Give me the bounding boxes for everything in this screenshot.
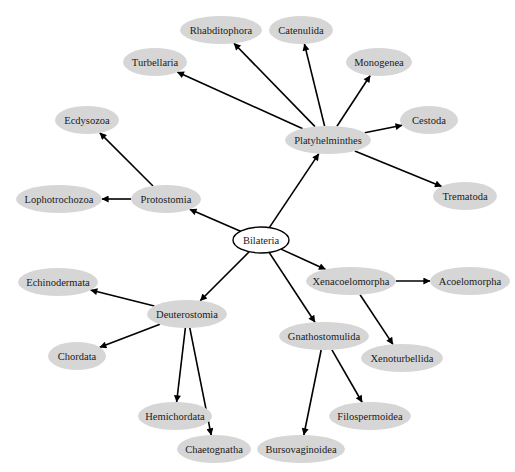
node-turbellaria: Turbellaria [123, 48, 187, 76]
edge-gnathostomulida-to-filospermoidea [332, 350, 362, 402]
node-label: Lophotrochozoa [25, 194, 94, 205]
node-rhabditophora: Rhabditophora [180, 16, 262, 44]
edge-bilateria-to-gnathostomulida [269, 252, 315, 322]
edge-platyhelminthes-to-monogenea [337, 75, 370, 126]
node-acoelomorpha: Acoelomorpha [430, 267, 510, 295]
node-ecdysozoa: Ecdysozoa [55, 106, 119, 134]
node-gnathostomulida: Gnathostomulida [279, 322, 369, 350]
node-label: Xenacoelomorpha [313, 276, 390, 287]
node-label: Turbellaria [132, 57, 179, 68]
node-label: Hemichordata [145, 411, 205, 422]
node-label: Cestoda [412, 115, 446, 126]
node-label: Bilateria [243, 235, 279, 246]
edge-platyhelminthes-to-turbellaria [177, 72, 303, 129]
node-chaetognatha: Chaetognatha [177, 435, 251, 463]
node-platyhelminthes: Platyhelminthes [285, 126, 371, 154]
edge-platyhelminthes-to-catenulida [304, 44, 324, 126]
edge-bilateria-to-xenacoelomorpha [281, 249, 326, 269]
edge-platyhelminthes-to-cestoda [365, 125, 402, 132]
node-label: Deuterostomia [156, 309, 218, 320]
edge-platyhelminthes-to-trematoda [355, 151, 442, 186]
node-label: Chordata [58, 351, 97, 362]
edge-deuterostomia-to-chordata [100, 324, 160, 347]
node-label: Echinodermata [26, 277, 90, 288]
edge-bilateria-to-protostomia [190, 209, 241, 231]
node-cestoda: Cestoda [400, 106, 458, 134]
node-label: Xenoturbellida [371, 353, 434, 364]
node-label: Rhabditophora [190, 25, 253, 36]
node-xenacoelomorpha: Xenacoelomorpha [306, 267, 396, 295]
node-echinodermata: Echinodermata [18, 268, 98, 296]
edge-platyhelminthes-to-rhabditophora [234, 43, 315, 126]
node-label: Acoelomorpha [439, 276, 502, 287]
edge-bilateria-to-deuterostomia [200, 252, 249, 301]
node-deuterostomia: Deuterostomia [147, 300, 227, 328]
node-monogenea: Monogenea [346, 48, 412, 76]
taxonomy-graph: BilateriaPlatyhelminthesProtostomiaDeute… [0, 0, 515, 472]
edge-bilateria-to-platyhelminthes [269, 154, 319, 228]
node-label: Filospermoidea [337, 411, 403, 422]
edge-deuterostomia-to-hemichordata [177, 328, 186, 402]
node-label: Monogenea [354, 57, 404, 68]
node-label: Trematoda [442, 191, 487, 202]
edge-protostomia-to-ecdysozoa [100, 133, 153, 186]
node-bilateria: Bilateria [233, 227, 289, 253]
node-label: Chaetognatha [185, 444, 243, 455]
nodes-layer: BilateriaPlatyhelminthesProtostomiaDeute… [16, 16, 510, 463]
node-protostomia: Protostomia [131, 185, 201, 213]
node-label: Platyhelminthes [294, 135, 362, 146]
node-trematoda: Trematoda [433, 182, 497, 210]
node-hemichordata: Hemichordata [138, 402, 212, 430]
node-label: Gnathostomulida [288, 331, 361, 342]
node-label: Catenulida [278, 25, 324, 36]
node-bursovaginoidea: Bursovaginoidea [257, 435, 345, 463]
node-label: Ecdysozoa [64, 115, 110, 126]
edge-deuterostomia-to-echinodermata [91, 290, 155, 306]
node-lophotrochozoa: Lophotrochozoa [16, 185, 102, 213]
node-label: Bursovaginoidea [265, 444, 336, 455]
edge-gnathostomulida-to-bursovaginoidea [304, 350, 321, 435]
node-catenulida: Catenulida [269, 16, 333, 44]
node-filospermoidea: Filospermoidea [329, 402, 411, 430]
node-chordata: Chordata [48, 342, 106, 370]
node-xenoturbellida: Xenoturbellida [361, 344, 443, 372]
node-label: Protostomia [141, 194, 192, 205]
